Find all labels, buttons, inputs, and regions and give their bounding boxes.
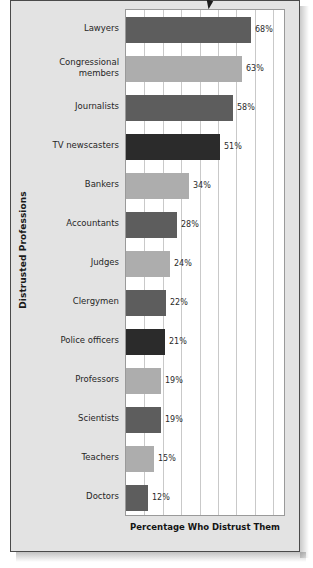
bar-row: 51% [126, 127, 286, 166]
bar-row: 21% [126, 322, 286, 361]
category-label: Accountants [13, 218, 125, 229]
bar-value-label: 21% [169, 337, 187, 346]
category-label: Teachers [13, 452, 125, 463]
category-label: Clergymen [13, 296, 125, 307]
bar-row: 34% [126, 166, 286, 205]
bar-value-label: 28% [181, 220, 199, 229]
bar[interactable] [126, 446, 154, 472]
chart-figure: Distrusted Professions LawyersCongressio… [0, 0, 313, 568]
bar[interactable] [126, 368, 161, 394]
category-label: TV newscasters [13, 140, 125, 151]
bar-value-label: 68% [255, 25, 273, 34]
bar[interactable] [126, 485, 148, 511]
bar-value-label: 15% [158, 454, 176, 463]
category-label: Professors [13, 374, 125, 385]
bar[interactable] [126, 17, 251, 43]
bar-row: 15% [126, 439, 286, 478]
category-label: Bankers [13, 179, 125, 190]
bar-row: 68% [126, 10, 286, 49]
bar-value-label: 63% [246, 64, 264, 73]
bar-row: 12% [126, 478, 286, 517]
bar-row: 19% [126, 361, 286, 400]
plot-area: 68%63%58%51%34%28%24%22%21%19%19%15%12% [125, 9, 285, 516]
bar[interactable] [126, 173, 189, 199]
bar-value-label: 19% [165, 415, 183, 424]
bar[interactable] [126, 212, 177, 238]
bar[interactable] [126, 95, 233, 121]
plate-shadow-right [300, 6, 309, 558]
category-label: Police officers [13, 335, 125, 346]
bar-row: 58% [126, 88, 286, 127]
bar[interactable] [126, 407, 161, 433]
bar-value-label: 22% [170, 298, 188, 307]
bar[interactable] [126, 290, 166, 316]
category-label: Congressionalmembers [13, 57, 125, 78]
bar-value-label: 51% [224, 142, 242, 151]
bar[interactable] [126, 134, 220, 160]
bar-value-label: 24% [174, 259, 192, 268]
bar-value-label: 34% [193, 181, 211, 190]
category-label-list: LawyersCongressionalmembersJournalistsTV… [0, 9, 125, 516]
plate-shadow-bottom [16, 552, 306, 562]
bar-row: 28% [126, 205, 286, 244]
bar-row: 63% [126, 49, 286, 88]
category-label: Lawyers [13, 23, 125, 34]
bar[interactable] [126, 56, 242, 82]
bar-row: 19% [126, 400, 286, 439]
bar-value-label: 58% [237, 103, 255, 112]
bar[interactable] [126, 329, 165, 355]
category-label: Judges [13, 257, 125, 268]
category-label: Scientists [13, 413, 125, 424]
bar[interactable] [126, 251, 170, 277]
bar-row: 22% [126, 283, 286, 322]
bar-row-list: 68%63%58%51%34%28%24%22%21%19%19%15%12% [126, 10, 286, 517]
bar-row: 24% [126, 244, 286, 283]
x-axis-title: Percentage Who Distrust Them [125, 522, 285, 532]
bar-value-label: 19% [165, 376, 183, 385]
bar-value-label: 12% [152, 493, 170, 502]
category-label: Journalists [13, 101, 125, 112]
category-label: Doctors [13, 491, 125, 502]
